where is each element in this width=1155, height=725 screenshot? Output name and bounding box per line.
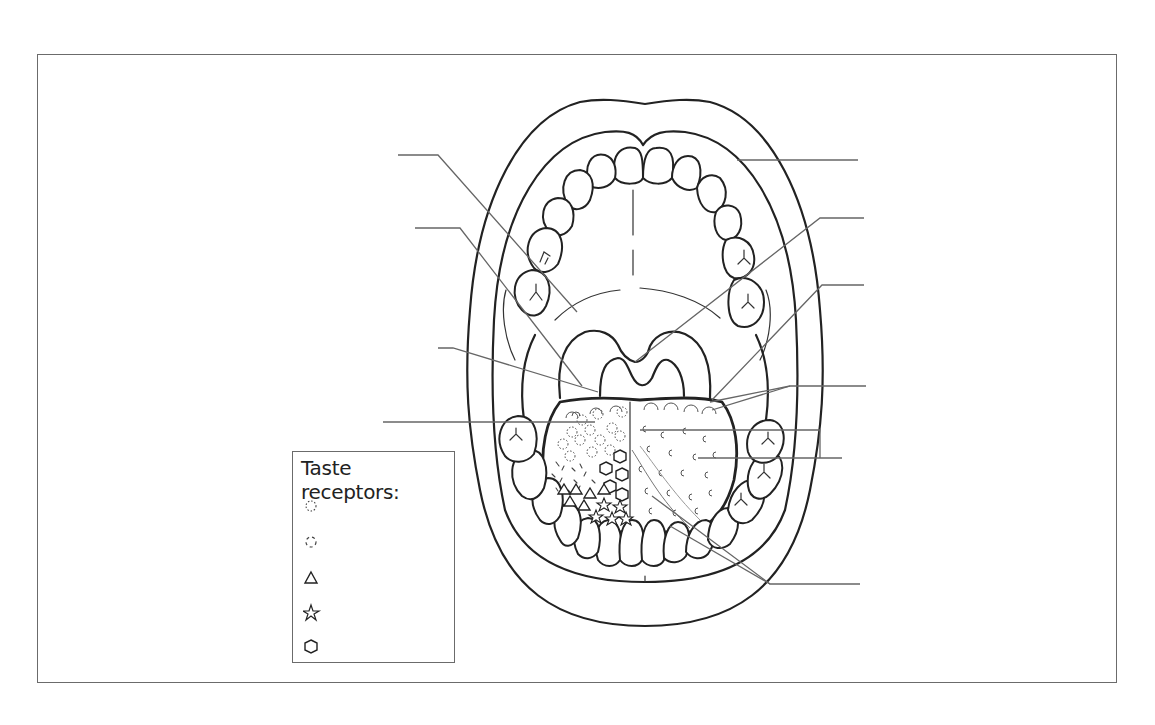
dashed-circle-icon — [303, 532, 325, 554]
legend-item-star — [303, 603, 443, 625]
taste-receptors-legend: Taste receptors: — [292, 451, 455, 663]
upper-teeth — [515, 148, 764, 327]
palatine-arch-left — [559, 331, 710, 398]
mouth-diagram — [0, 0, 1155, 725]
dotted-circle-icon — [303, 496, 325, 518]
legend-item-triangle — [303, 568, 443, 590]
legend-item-dotted-circle — [303, 496, 443, 518]
tongue-receptors-left — [552, 403, 716, 525]
uvula — [600, 358, 684, 396]
legend-item-dashed-circle — [303, 532, 443, 554]
star-icon — [303, 603, 325, 625]
cheek-line-left — [503, 290, 515, 360]
triangle-icon — [303, 568, 325, 590]
legend-item-hexagon — [303, 636, 443, 658]
hexagon-icon — [303, 636, 325, 658]
